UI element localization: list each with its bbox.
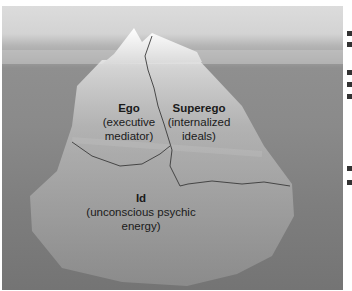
id-name: Id: [86, 191, 195, 205]
superego-name: Superego: [168, 101, 231, 115]
ego-desc-line1: (executive: [103, 115, 155, 129]
cropped-text-fragment: [347, 82, 352, 87]
superego-desc-line1: (internalized: [168, 115, 231, 129]
iceberg-diagram: Ego (executive mediator) Superego (inter…: [2, 6, 343, 290]
superego-desc-line2: ideals): [168, 129, 231, 143]
ego-desc-line2: mediator): [103, 129, 155, 143]
cropped-text-fragment: [347, 94, 352, 99]
ego-label: Ego (executive mediator): [103, 101, 155, 143]
cropped-text-fragment: [347, 166, 352, 171]
cropped-text-fragment: [347, 42, 352, 47]
cropped-text-fragment: [347, 180, 352, 185]
id-desc-line1: (unconscious psychic: [86, 205, 195, 219]
id-label: Id (unconscious psychic energy): [86, 191, 195, 233]
ego-name: Ego: [103, 101, 155, 115]
id-desc-line2: energy): [86, 219, 195, 233]
superego-label: Superego (internalized ideals): [168, 101, 231, 143]
iceberg-illustration: [2, 6, 343, 290]
cropped-text-fragment: [347, 31, 352, 36]
cropped-text-fragment: [347, 70, 352, 75]
